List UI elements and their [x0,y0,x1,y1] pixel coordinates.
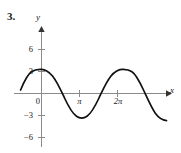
coordinate-plane [0,0,181,153]
y-tick-label-6: 6 [18,44,33,54]
cosine-curve [21,69,167,120]
y-tick-label-3: 3 [18,66,33,76]
y-tick-label-minus-6: −6 [14,132,33,142]
y-axis-label: y [36,12,40,22]
y-tick-label-minus-3: −3 [14,110,33,120]
y-tick-label-0: 0 [25,96,40,106]
graph-figure: 3. y x 6 3 0 −3 −6 π 2π [0,0,181,153]
x-tick-label-2pi: 2π [110,96,126,106]
x-tick-label-pi: π [73,96,86,106]
y-axis-arrow-icon [38,26,44,32]
x-axis-label: x [170,85,174,95]
